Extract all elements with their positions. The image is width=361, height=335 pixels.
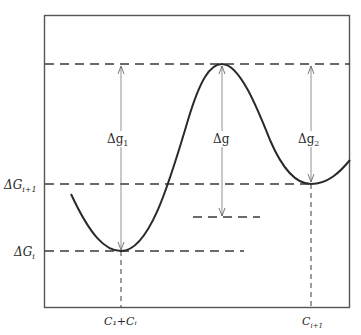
ci1-label: Ci+1 bbox=[302, 315, 323, 330]
dg-label: Δg bbox=[213, 132, 230, 146]
dG-i-label: ΔGi bbox=[13, 245, 35, 261]
energy-curve bbox=[71, 64, 350, 251]
dG-i1-label: ΔGi+1 bbox=[3, 178, 37, 194]
free-energy-diagram: Δg1 Δg Δg2 ΔGi+1 ΔGi C₁+Cᵢ Ci+1 bbox=[0, 0, 361, 335]
plot-frame bbox=[45, 16, 350, 308]
c1ci-label: C₁+Cᵢ bbox=[104, 315, 137, 328]
